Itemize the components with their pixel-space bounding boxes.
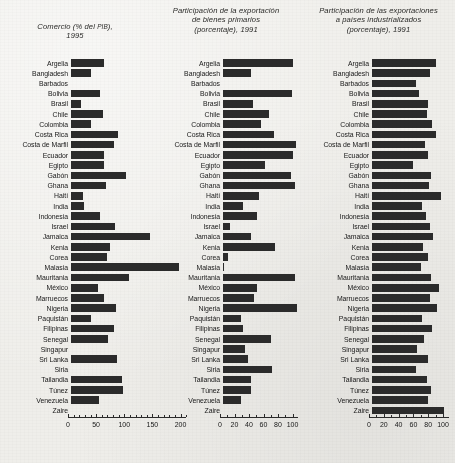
axis-tick-label: 0 xyxy=(66,421,70,428)
bar xyxy=(223,233,251,241)
category-label: Jamaica xyxy=(150,233,223,240)
bar-track xyxy=(372,89,455,99)
bar-row: Marruecos xyxy=(0,293,150,303)
category-label: Indonesia xyxy=(302,213,372,220)
bar xyxy=(372,131,436,139)
category-label: Senegal xyxy=(150,336,223,343)
bar-track xyxy=(223,232,302,242)
bar-row: Bolivia xyxy=(150,89,302,99)
bar-row: México xyxy=(150,283,302,293)
axis-minor-tick xyxy=(376,415,377,417)
bar-row: Gabón xyxy=(0,170,150,180)
category-label: Gabón xyxy=(0,172,71,179)
axis-minor-tick xyxy=(130,415,131,417)
category-label: Jamaica xyxy=(0,233,71,240)
bar xyxy=(71,376,122,384)
bar xyxy=(223,304,297,312)
bar-row: Zaire xyxy=(150,405,302,415)
category-label: Singapur xyxy=(150,346,223,353)
bar-row: México xyxy=(0,283,150,293)
bar xyxy=(71,253,107,261)
bar xyxy=(223,396,241,404)
bar-row: Haití xyxy=(0,191,150,201)
bar-track xyxy=(71,89,150,99)
bar-row: Marruecos xyxy=(302,293,455,303)
category-label: Paquistán xyxy=(302,315,372,322)
chart-title-2: Participación de la exportación de biene… xyxy=(150,0,302,34)
bar xyxy=(223,151,293,159)
bar-row: Chile xyxy=(150,109,302,119)
axis-tick-label: 60 xyxy=(409,421,417,428)
bar xyxy=(71,294,104,302)
bar xyxy=(372,182,429,190)
bar xyxy=(223,100,253,108)
bar-row: Mauritania xyxy=(150,273,302,283)
bar-track xyxy=(71,242,150,252)
bar xyxy=(71,69,91,77)
axis-line xyxy=(369,417,449,418)
category-label: Kenia xyxy=(0,244,71,251)
category-label: Singapur xyxy=(302,346,372,353)
bar-track xyxy=(223,262,302,272)
bar-row: Kenia xyxy=(302,242,455,252)
bar-row: Venezuela xyxy=(150,395,302,405)
axis-tick-label: 80 xyxy=(274,421,282,428)
bar-row: Jamaica xyxy=(0,232,150,242)
bar xyxy=(71,90,100,98)
bar-track xyxy=(71,303,150,313)
axis-tick-label: 100 xyxy=(118,421,130,428)
category-label: Senegal xyxy=(302,336,372,343)
bar-row: Malasia xyxy=(150,262,302,272)
bar xyxy=(372,120,432,128)
bar-row: Indonesia xyxy=(0,211,150,221)
bar xyxy=(71,141,114,149)
bar-row: Venezuela xyxy=(0,395,150,405)
bar-row: Siria xyxy=(150,365,302,375)
axis-tick-label: 60 xyxy=(260,421,268,428)
category-label: Sri Lanka xyxy=(302,356,372,363)
bar xyxy=(71,223,115,231)
category-label: Paquistán xyxy=(150,315,223,322)
bar-track xyxy=(223,160,302,170)
chart-title-3-line1: Participación de las exportaciones xyxy=(319,6,438,15)
bar-track xyxy=(223,191,302,201)
axis-tick-label: 0 xyxy=(367,421,371,428)
bar-track xyxy=(71,170,150,180)
category-label: Ecuador xyxy=(0,152,71,159)
bar-track xyxy=(372,395,455,405)
bar-row: Colombia xyxy=(302,119,455,129)
bar xyxy=(223,345,245,353)
category-label: Filipinas xyxy=(302,325,372,332)
bar-track xyxy=(372,324,455,334)
axis-minor-tick xyxy=(242,415,243,417)
category-label: Bangladesh xyxy=(302,70,372,77)
bar-track xyxy=(372,119,455,129)
category-label: Singapur xyxy=(0,346,71,353)
chart-title-1-smallcaps: PIB xyxy=(97,23,108,30)
axis-minor-tick xyxy=(436,415,437,417)
axis-minor-tick xyxy=(391,415,392,417)
bar-row: Indonesia xyxy=(150,211,302,221)
category-label: Malasia xyxy=(302,264,372,271)
category-label: India xyxy=(302,203,372,210)
bar-row: Barbados xyxy=(150,78,302,88)
bar xyxy=(372,212,426,220)
bar-track xyxy=(223,89,302,99)
bar-track xyxy=(71,252,150,262)
bar-track xyxy=(71,222,150,232)
bar xyxy=(372,100,428,108)
bar xyxy=(223,376,251,384)
bar-track xyxy=(372,273,455,283)
category-label: Ghana xyxy=(0,182,71,189)
bar xyxy=(372,325,432,333)
category-label: Sri Lanka xyxy=(150,356,223,363)
category-label: Jamaica xyxy=(302,233,372,240)
category-label: Corea xyxy=(302,254,372,261)
bar-row: Mauritania xyxy=(302,273,455,283)
bar-track xyxy=(372,201,455,211)
bar-row: Jamaica xyxy=(302,232,455,242)
bar-row: Tailandia xyxy=(302,375,455,385)
bar xyxy=(372,90,419,98)
bar-row: Brasil xyxy=(302,99,455,109)
bar xyxy=(71,325,114,333)
